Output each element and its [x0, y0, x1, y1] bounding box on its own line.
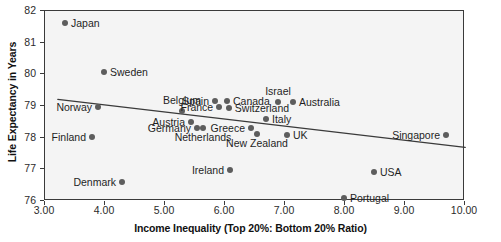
data-point [248, 125, 254, 131]
data-point [62, 20, 68, 26]
scatter-chart: 82818079787776 3.004.005.006.007.008.009… [0, 0, 501, 242]
data-point [216, 104, 222, 110]
y-tick-mark [40, 137, 44, 138]
data-point-label: Portugal [350, 193, 389, 204]
data-point-label: Switzerland [235, 102, 289, 113]
y-tick-label: 82 [10, 5, 36, 15]
x-tick-label: 7.00 [264, 205, 304, 216]
x-tick-label: 3.00 [24, 205, 64, 216]
data-point [89, 134, 95, 140]
data-point [226, 105, 232, 111]
data-point [95, 104, 101, 110]
data-point-label: Norway [56, 101, 92, 112]
x-tick-label: 8.00 [324, 205, 364, 216]
x-axis-title: Income Inequality (Top 20%: Bottom 20% R… [0, 222, 501, 234]
data-point-label: Australia [299, 97, 340, 108]
data-point-label: Israel [265, 86, 291, 97]
data-point-label: UK [293, 129, 308, 140]
data-point [341, 195, 347, 201]
y-tick-mark [40, 42, 44, 43]
data-point-label: Denmark [73, 176, 116, 187]
y-axis-title: Life Expectancy in Years [6, 27, 18, 177]
y-tick-mark [40, 168, 44, 169]
data-point [371, 169, 377, 175]
data-point-label: USA [380, 166, 402, 177]
data-point-label: Greece [211, 122, 245, 133]
data-point-label: Italy [272, 114, 291, 125]
x-tick-label: 6.00 [204, 205, 244, 216]
y-tick-mark [40, 73, 44, 74]
data-point-label: Ireland [192, 164, 224, 175]
data-point-label: Finland [52, 131, 86, 142]
y-tick-label: 76 [10, 195, 36, 205]
y-tick-mark [40, 10, 44, 11]
data-point-label: Japan [71, 17, 100, 28]
data-point [101, 69, 107, 75]
data-point [227, 167, 233, 173]
x-tick-label: 10.00 [444, 205, 484, 216]
data-point-label: Singapore [392, 130, 440, 141]
data-point [284, 132, 290, 138]
data-point-label: Netherlands [175, 132, 232, 143]
data-point-label: France [181, 101, 214, 112]
x-tick-label: 5.00 [144, 205, 184, 216]
y-tick-mark [40, 105, 44, 106]
data-point [119, 179, 125, 185]
data-point-label: New Zealand [226, 138, 288, 149]
x-tick-label: 4.00 [84, 205, 124, 216]
data-point-label: Sweden [110, 66, 148, 77]
x-tick-label: 9.00 [384, 205, 424, 216]
